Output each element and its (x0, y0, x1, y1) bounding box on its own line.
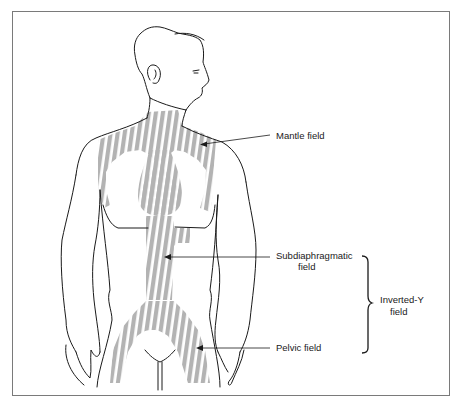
mantle-field (98, 110, 216, 216)
torso-left (97, 190, 112, 387)
inverted-y-brace (362, 256, 372, 353)
pelvic-field-label: Pelvic field (276, 342, 321, 353)
ear-outline (147, 65, 160, 83)
subdiaphragmatic-label-line2: field (298, 261, 315, 272)
pelvic-field (110, 301, 210, 383)
inverted-y-label-line1: Inverted-Y (380, 294, 424, 305)
mantle-field-label: Mantle field (276, 130, 325, 141)
pelvic-pointer (196, 345, 270, 351)
subdiaphragmatic-label-line1: Subdiaphragmatic (276, 250, 353, 261)
head-outline (134, 27, 209, 110)
diagram-canvas: Mantle field Subdiaphragmatic field Pelv… (0, 0, 462, 405)
torso-right (210, 195, 220, 387)
inverted-y-label-line2: field (390, 306, 407, 317)
